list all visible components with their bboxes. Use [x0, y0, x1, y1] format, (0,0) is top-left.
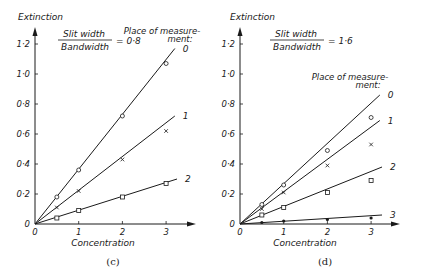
y-tick-label: 0·8	[221, 99, 235, 109]
panel-caption: (c)	[106, 256, 120, 267]
y-tick-label: 1·0	[16, 69, 30, 79]
x-axis-arrow-icon	[187, 222, 196, 227]
series-1: 1	[240, 116, 394, 225]
dot-marker-icon	[326, 218, 329, 221]
y-tick-label: 0·4	[221, 159, 235, 169]
y-tick-label: 0·6	[16, 129, 30, 139]
circle-marker-icon	[260, 203, 264, 207]
series-label: 1	[388, 116, 394, 126]
x-tick-label: 1	[76, 227, 81, 237]
y-axis-label: Extinction	[18, 12, 63, 22]
y-tick-label: 0	[25, 219, 30, 229]
fit-line	[35, 116, 175, 224]
cross-marker-icon	[121, 158, 125, 162]
panel-caption: (d)	[318, 256, 332, 267]
series-label: 2	[185, 174, 191, 184]
series-label: 2	[390, 162, 396, 172]
series-label: 0	[183, 44, 189, 54]
square-marker-icon	[260, 213, 264, 217]
circle-marker-icon	[325, 149, 329, 153]
y-tick-label: 0·2	[16, 189, 30, 199]
y-tick-label: 0·2	[221, 189, 235, 199]
chart-panel-d: 012300·20·40·60·81·01·2ExtinctionConcent…	[221, 12, 400, 267]
square-marker-icon	[120, 195, 124, 199]
x-axis-label: Concentration	[71, 238, 135, 248]
series-2: 2	[240, 162, 396, 224]
ratio-numerator: Slit width	[63, 29, 105, 39]
dot-marker-icon	[370, 216, 373, 219]
x-axis-arrow-icon	[391, 222, 400, 227]
circle-marker-icon	[282, 183, 286, 187]
legend-title-cont: ment:	[167, 34, 192, 44]
cross-marker-icon	[164, 129, 168, 133]
y-tick-label: 0·4	[16, 159, 30, 169]
x-axis-label: Concentration	[273, 238, 337, 248]
y-tick-label: 1·2	[16, 39, 30, 49]
y-axis-arrow-icon	[33, 27, 38, 36]
series-0: 0	[240, 90, 394, 224]
circle-marker-icon	[369, 116, 373, 120]
legend-title-cont: ment:	[355, 80, 380, 90]
y-tick-label: 1·0	[221, 69, 235, 79]
square-marker-icon	[369, 179, 373, 183]
x-tick-label: 3	[163, 227, 168, 237]
ratio-denominator: Bandwidth	[273, 42, 321, 52]
circle-marker-icon	[120, 114, 124, 118]
y-tick-label: 1·2	[221, 39, 235, 49]
y-tick-label: 0·8	[16, 99, 30, 109]
x-tick-label: 2	[325, 227, 330, 237]
x-tick-label: 3	[368, 227, 373, 237]
series-label: 1	[183, 111, 189, 121]
square-marker-icon	[325, 191, 329, 195]
square-marker-icon	[282, 206, 286, 210]
ratio-value: = 1·6	[328, 36, 353, 46]
x-tick-label: 0	[237, 227, 242, 237]
square-marker-icon	[77, 209, 81, 213]
figure: 012300·20·40·60·81·01·2ExtinctionConcent…	[0, 0, 431, 274]
square-marker-icon	[164, 182, 168, 186]
series-2: 2	[35, 174, 191, 224]
y-axis-arrow-icon	[238, 27, 243, 36]
circle-marker-icon	[77, 168, 81, 172]
y-tick-label: 0·6	[221, 129, 235, 139]
dot-marker-icon	[260, 221, 263, 224]
x-tick-label: 1	[281, 227, 286, 237]
x-tick-label: 2	[120, 227, 125, 237]
series-label: 0	[388, 90, 394, 100]
y-tick-label: 0	[230, 219, 235, 229]
series-0: 0	[35, 44, 189, 225]
circle-marker-icon	[55, 195, 59, 199]
cross-marker-icon	[326, 164, 330, 168]
ratio-denominator: Bandwidth	[61, 42, 109, 52]
chart-panel-c: 012300·20·40·60·81·01·2ExtinctionConcent…	[16, 12, 200, 267]
ratio-value: = 0·8	[116, 36, 141, 46]
dot-marker-icon	[282, 219, 285, 222]
series-label: 3	[390, 210, 396, 220]
ratio-numerator: Slit width	[275, 29, 317, 39]
x-tick-label: 0	[32, 227, 37, 237]
y-axis-label: Extinction	[230, 12, 275, 22]
circle-marker-icon	[164, 62, 168, 66]
square-marker-icon	[55, 216, 59, 220]
cross-marker-icon	[369, 143, 373, 147]
